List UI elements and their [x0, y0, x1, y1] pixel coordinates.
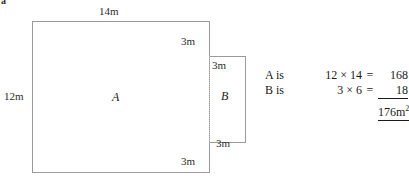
- area-label-a: A: [112, 91, 119, 104]
- calculation-equals-b: =: [362, 83, 378, 98]
- area-label-b: B: [221, 90, 228, 103]
- calculation-label-a: A is: [265, 68, 305, 83]
- calculation-value-a: 168: [378, 68, 408, 83]
- question-marker: a: [1, 0, 6, 6]
- worksheet-figure: a 14m 12m 3m 3m 3m 3m A B A is 12 × 14 =…: [0, 0, 409, 178]
- calculation-value-b: 18: [378, 83, 408, 99]
- calculation-total-exponent: 2: [405, 104, 409, 113]
- calculation-row-a: A is 12 × 14 = 168: [265, 68, 409, 83]
- calculation-equals-a: =: [362, 68, 378, 83]
- calculation-total-value: 176m2: [378, 101, 409, 121]
- dotted-divider-line: [209, 56, 210, 143]
- dimension-label-notch-bottom-3m: 3m: [181, 155, 195, 168]
- dimension-label-b-bottom-3m: 3m: [216, 137, 230, 150]
- dimension-label-b-top-3m: 3m: [212, 59, 226, 72]
- dimension-label-top-14m: 14m: [99, 5, 119, 18]
- dimension-label-left-12m: 12m: [4, 90, 24, 103]
- calculation-total-spacer: [265, 101, 378, 121]
- calculation-expression-b: 3 × 6: [305, 83, 362, 98]
- calculation-total-row: 176m2: [265, 101, 409, 121]
- calculation-expression-a: 12 × 14: [305, 68, 362, 83]
- calculation-total-number: 176m: [378, 105, 405, 119]
- calculation-row-b: B is 3 × 6 = 18: [265, 83, 409, 99]
- dimension-label-notch-top-3m: 3m: [181, 35, 195, 48]
- calculation-label-b: B is: [265, 83, 305, 98]
- calculation-block: A is 12 × 14 = 168 B is 3 × 6 = 18 176m2: [265, 68, 409, 121]
